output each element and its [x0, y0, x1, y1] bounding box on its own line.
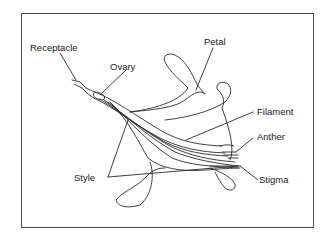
leader-petal: [196, 48, 213, 90]
leader-receptacle: [60, 53, 76, 80]
label-style: Style: [74, 173, 95, 183]
petal-upper: [130, 54, 205, 112]
label-filament: Filament: [257, 107, 293, 117]
leader-style-1: [108, 120, 128, 177]
petal-lower-right: [210, 168, 235, 190]
leader-stigma: [240, 166, 258, 180]
leader-anther: [236, 138, 253, 152]
leader-ovary: [102, 70, 126, 93]
flower-illustration: [0, 0, 328, 238]
petal-lower-left: [116, 162, 165, 207]
label-petal: Petal: [204, 37, 226, 47]
label-anther: Anther: [257, 132, 285, 142]
label-receptacle: Receptacle: [30, 43, 78, 53]
receptacle-shape: [72, 80, 95, 92]
leader-filament: [186, 112, 253, 140]
label-ovary: Ovary: [110, 62, 135, 72]
label-stigma: Stigma: [259, 175, 289, 185]
